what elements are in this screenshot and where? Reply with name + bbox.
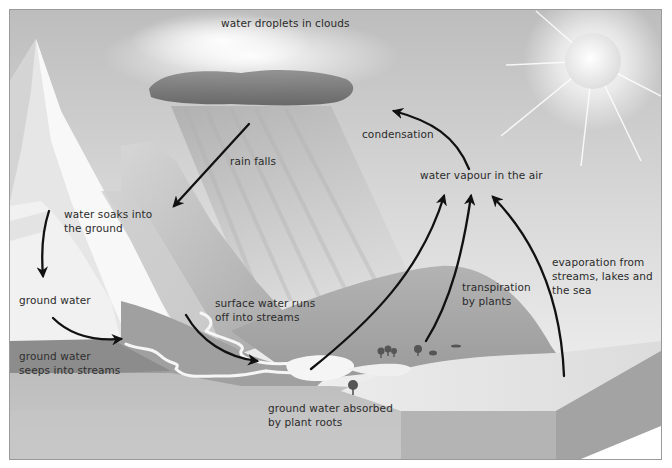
label-soaks-line1: water soaks into — [64, 207, 152, 221]
label-roots: ground water absorbed by plant roots — [268, 401, 393, 429]
label-soaks-line2: the ground — [64, 221, 152, 235]
label-seeps-line1: ground water — [19, 349, 120, 363]
label-roots-line2: by plant roots — [268, 415, 393, 429]
label-ground-water: ground water — [19, 293, 91, 307]
label-evaporation-line2: streams, lakes and — [552, 269, 653, 283]
label-evaporation-line3: the sea — [552, 283, 653, 297]
label-transpiration-line2: by plants — [462, 294, 531, 308]
label-seeps-line2: seeps into streams — [19, 363, 120, 377]
label-runoff-line2: off into streams — [215, 310, 315, 324]
label-vapour: water vapour in the air — [420, 168, 543, 182]
label-transpiration-line1: transpiration — [462, 280, 531, 294]
label-evaporation: evaporation from streams, lakes and the … — [552, 255, 653, 297]
label-transpiration: transpiration by plants — [462, 280, 531, 308]
label-seeps: ground water seeps into streams — [19, 349, 120, 377]
label-runoff-line1: surface water runs — [215, 296, 315, 310]
label-rain: rain falls — [230, 154, 276, 168]
label-runoff: surface water runs off into streams — [215, 296, 315, 324]
label-condensation: condensation — [362, 127, 434, 141]
label-roots-line1: ground water absorbed — [268, 401, 393, 415]
label-evaporation-line1: evaporation from — [552, 255, 653, 269]
label-clouds: water droplets in clouds — [221, 16, 350, 30]
water-cycle-diagram: water droplets in clouds rain falls cond… — [9, 9, 662, 460]
label-soaks: water soaks into the ground — [64, 207, 152, 235]
